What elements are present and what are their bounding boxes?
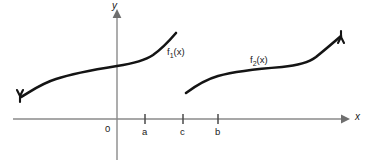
tick-label-a: a — [142, 127, 147, 137]
curve-f1 — [21, 33, 176, 97]
graph-canvas — [0, 0, 373, 167]
x-axis-arrowhead-icon — [341, 115, 350, 124]
y-axis-label: y — [112, 1, 117, 11]
origin-label: 0 — [105, 124, 110, 134]
x-axis-label: x — [355, 112, 360, 122]
curve-label-f1: f1(x) — [167, 47, 185, 59]
curve-label-f1-arg: (x) — [174, 46, 185, 57]
tick-label-b: b — [215, 127, 220, 137]
function-graph-figure: y x 0 a c b f1(x) f2(x) — [0, 0, 373, 167]
curve-label-f2: f2(x) — [250, 55, 268, 67]
curve-label-f2-arg: (x) — [257, 54, 268, 65]
tick-label-c: c — [180, 127, 185, 137]
